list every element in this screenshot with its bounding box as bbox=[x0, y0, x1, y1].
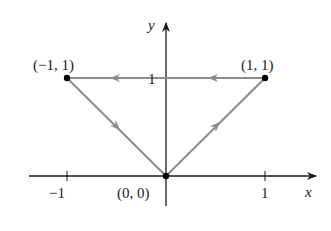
point-label-p2: (−1, 1) bbox=[33, 57, 74, 74]
y-axis-label: y bbox=[146, 17, 155, 33]
point-origin bbox=[163, 173, 169, 179]
point-label-origin: (0, 0) bbox=[117, 185, 150, 202]
x-tick-label-neg1: −1 bbox=[49, 185, 65, 201]
x-axis-label: x bbox=[304, 184, 312, 200]
path-diagram: y x −1 1 1 (0, 0) (1, 1) (−1, 1) bbox=[0, 0, 331, 231]
point-p1 bbox=[262, 75, 268, 81]
y-tick-label-1: 1 bbox=[148, 71, 156, 87]
point-p2 bbox=[64, 75, 70, 81]
x-tick-label-1: 1 bbox=[261, 185, 269, 201]
point-label-p1: (1, 1) bbox=[241, 57, 274, 74]
